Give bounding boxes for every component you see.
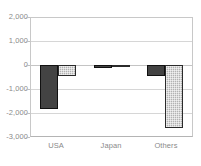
bar-others-series1 (147, 65, 165, 76)
bar-chart: 2,000 1,000 0 -1,000 -2,000 -3,000 USA J… (0, 0, 201, 166)
y-axis-tick-label: -3,000 (0, 133, 28, 141)
bar-japan-series2 (112, 65, 130, 67)
y-axis-tick-label: -2,000 (0, 109, 28, 117)
bar-usa-series2 (58, 65, 76, 76)
gridline-1000 (31, 41, 192, 42)
bar-usa-series1 (40, 65, 58, 109)
x-axis-tick-label-others: Others (142, 141, 190, 150)
y-axis-tick-mark (26, 137, 30, 138)
y-axis-tick-label: 1,000 (0, 37, 28, 45)
bar-others-series2 (165, 65, 183, 128)
y-axis-tick-label: 0 (0, 61, 28, 69)
y-axis-tick-label: 2,000 (0, 13, 28, 21)
x-axis-tick-label-usa: USA (32, 141, 80, 150)
x-axis-tick-label-japan: Japan (87, 141, 135, 150)
y-axis-tick-label: -1,000 (0, 85, 28, 93)
plot-area (30, 17, 193, 137)
bar-japan-series1 (94, 65, 112, 68)
